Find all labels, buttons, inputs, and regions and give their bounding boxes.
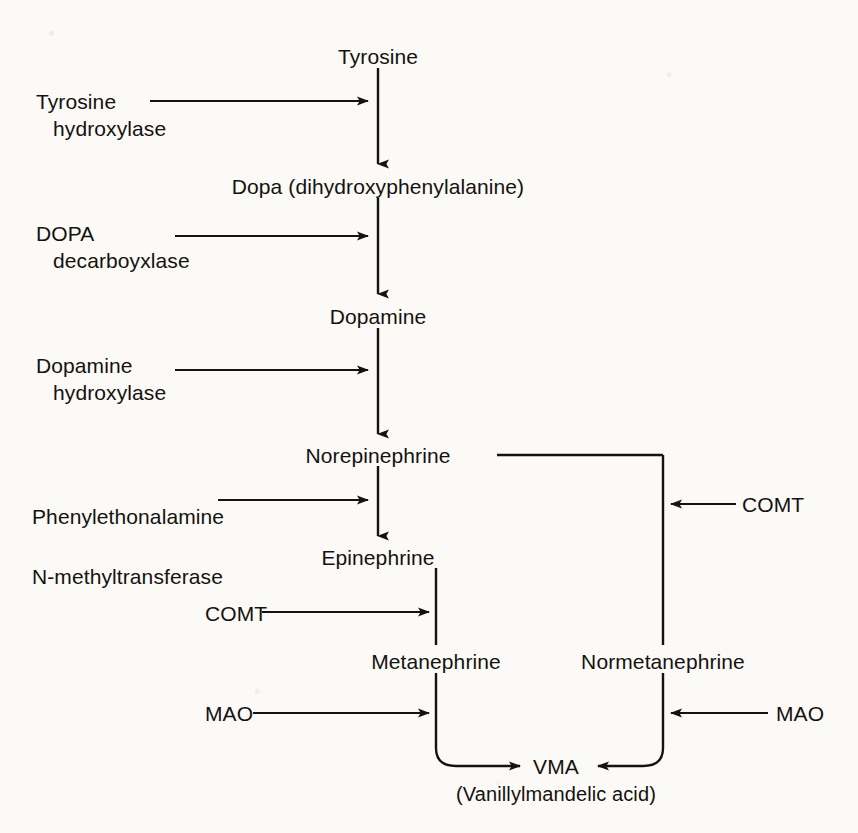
node-metanephrine: Metanephrine <box>371 649 501 674</box>
enzyme-label-line1: Tyrosine <box>36 90 116 113</box>
node-tyrosine: Tyrosine <box>338 44 418 69</box>
node-normetanephrine: Normetanephrine <box>581 649 745 674</box>
node-dopamine: Dopamine <box>330 304 427 329</box>
enzyme-mao-normetanephrine: MAO <box>776 700 824 727</box>
vma-full-name-caption: (Vanillylmandelic acid) <box>456 783 656 806</box>
enzyme-label-line1: DOPA <box>36 222 94 245</box>
enzyme-label-line1: MAO <box>205 702 253 725</box>
node-vma: VMA <box>533 754 579 779</box>
enzyme-label-line2: N-methyltransferase <box>32 547 224 607</box>
enzyme-label-line1: COMT <box>742 493 804 516</box>
enzyme-label-line2: hydroxylase <box>36 379 166 406</box>
path-normetanephrine-to-vma <box>598 673 663 766</box>
node-norepinephrine: Norepinephrine <box>306 443 451 468</box>
path-metanephrine-to-vma <box>436 673 520 766</box>
enzyme-comt-normetanephrine: COMT <box>742 491 804 518</box>
enzyme-label-line1: Dopamine <box>36 354 133 377</box>
enzyme-phenylethanolamine-n-methyltransferase: Phenylethonalamine N-methyltransferase <box>32 487 224 607</box>
enzyme-dopa-decarboxylase: DOPA decarboyxlase <box>36 220 190 274</box>
enzyme-label-line2: hydroxylase <box>36 115 166 142</box>
enzyme-label-line2: decarboyxlase <box>36 247 190 274</box>
enzyme-label-line1: Phenylethonalamine <box>32 505 224 528</box>
enzyme-mao-metanephrine: MAO <box>205 700 253 727</box>
enzyme-label-line1: COMT <box>205 602 267 625</box>
enzyme-tyrosine-hydroxylase: Tyrosine hydroxylase <box>36 88 166 142</box>
enzyme-dopamine-hydroxylase: Dopamine hydroxylase <box>36 352 166 406</box>
enzyme-label-line1: MAO <box>776 702 824 725</box>
node-dopa: Dopa (dihydroxyphenylalanine) <box>232 174 524 199</box>
pathway-diagram-page: Tyrosine Dopa (dihydroxyphenylalanine) D… <box>0 0 858 833</box>
node-epinephrine: Epinephrine <box>321 545 434 570</box>
enzyme-comt-metanephrine: COMT <box>205 600 267 627</box>
